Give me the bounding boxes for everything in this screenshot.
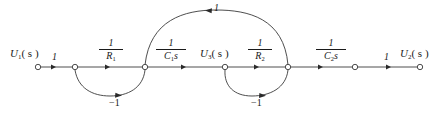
arrowhead-branch-6 bbox=[386, 64, 391, 69]
node-label-u3-sub: 3 bbox=[208, 53, 212, 61]
gain-inv-c1s-numerator: 1 bbox=[156, 38, 186, 49]
node-5[interactable] bbox=[285, 64, 290, 69]
arrowhead-branch-4 bbox=[254, 64, 259, 69]
node-label-u3-arg: ( s ) bbox=[211, 47, 228, 59]
signal-flow-graph-canvas bbox=[0, 0, 444, 118]
gain-inv-c2s-numerator: 1 bbox=[316, 38, 346, 49]
gain-inv-r1-denominator: R1 bbox=[99, 51, 123, 62]
gain-inv-c1s-denominator: C1s bbox=[156, 51, 186, 62]
node-u2[interactable] bbox=[417, 64, 422, 69]
arrowhead-branch-2 bbox=[105, 64, 110, 69]
node-label-u2-sub: 2 bbox=[408, 53, 412, 61]
arrowhead-branch-3 bbox=[181, 64, 186, 69]
gain-label-feedback-left: −1 bbox=[109, 98, 120, 108]
gain-label-one-right: 1 bbox=[384, 52, 389, 62]
gain-label-top-arc: 1 bbox=[214, 3, 219, 13]
gain-label-inv-c2s: 1 C2s bbox=[316, 38, 346, 61]
gain-label-inv-c1s: 1 C1s bbox=[156, 38, 186, 61]
node-label-u3-var: U bbox=[200, 47, 208, 59]
feedback-arc-left bbox=[75, 70, 145, 96]
gain-label-inv-r2: 1 R2 bbox=[248, 38, 272, 61]
signal-flow-graph-figure: U1( s ) U3( s ) U2( s ) 1 1 R1 1 C1s 1 R… bbox=[0, 0, 444, 118]
gain-label-inv-r1: 1 R1 bbox=[99, 38, 123, 61]
node-label-u2-arg: ( s ) bbox=[411, 47, 428, 59]
node-label-u1-arg: ( s ) bbox=[21, 47, 38, 59]
node-label-u1: U1( s ) bbox=[10, 48, 39, 59]
feedback-arc-right bbox=[225, 70, 288, 96]
arrowhead-arc-top bbox=[205, 8, 212, 13]
node-label-u2-var: U bbox=[400, 47, 408, 59]
node-6[interactable] bbox=[352, 64, 357, 69]
node-label-u1-var: U bbox=[10, 47, 18, 59]
gain-inv-r1-numerator: 1 bbox=[99, 38, 123, 49]
node-u1[interactable] bbox=[35, 64, 40, 69]
gain-label-one-left: 1 bbox=[52, 52, 57, 62]
gain-inv-r2-numerator: 1 bbox=[248, 38, 272, 49]
gain-inv-r2-denominator: R2 bbox=[248, 51, 272, 62]
node-u3[interactable] bbox=[222, 64, 227, 69]
node-2[interactable] bbox=[72, 64, 77, 69]
node-label-u2: U2( s ) bbox=[400, 48, 429, 59]
gain-label-feedback-right: −1 bbox=[251, 98, 262, 108]
arrowhead-branch-5 bbox=[318, 64, 323, 69]
gain-inv-c2s-denominator: C2s bbox=[316, 51, 346, 62]
node-label-u1-sub: 1 bbox=[18, 53, 22, 61]
arrowhead-branch-1 bbox=[51, 64, 56, 69]
node-label-u3: U3( s ) bbox=[200, 48, 229, 59]
node-3[interactable] bbox=[142, 64, 147, 69]
